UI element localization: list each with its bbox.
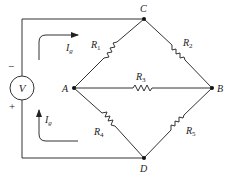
resistor-r3: R3	[74, 71, 212, 91]
resistor-r4-label: R4	[93, 126, 104, 139]
resistor-r2: R2	[144, 19, 212, 88]
node-c-label: C	[140, 3, 147, 14]
current-arrow-top: Ig	[39, 35, 78, 60]
resistor-r4: R4	[74, 88, 144, 158]
source-minus-sign: −	[8, 60, 14, 72]
current-bottom-label: Ig	[44, 114, 52, 127]
resistor-r3-label: R3	[135, 71, 146, 84]
voltage-source: V − +	[8, 60, 34, 112]
current-arrow-bottom: Ig	[39, 110, 78, 141]
wheatstone-bridge-diagram: V − + R3 R1 R2 R4 R5 A	[0, 0, 230, 177]
node-b: B	[210, 83, 223, 94]
node-b-label: B	[217, 83, 223, 94]
resistor-r1-label: R1	[90, 39, 101, 52]
resistor-r2-label: R2	[182, 37, 193, 50]
current-top-label: Ig	[65, 42, 73, 55]
resistor-r1: R1	[74, 19, 144, 88]
source-plus-sign: +	[9, 100, 15, 112]
node-a: A	[61, 83, 76, 94]
node-a-label: A	[61, 83, 69, 94]
node-d: D	[139, 156, 148, 174]
node-c: C	[140, 3, 147, 21]
resistor-r5: R5	[144, 88, 212, 158]
node-d-label: D	[139, 163, 148, 174]
resistor-r5-label: R5	[185, 125, 196, 138]
